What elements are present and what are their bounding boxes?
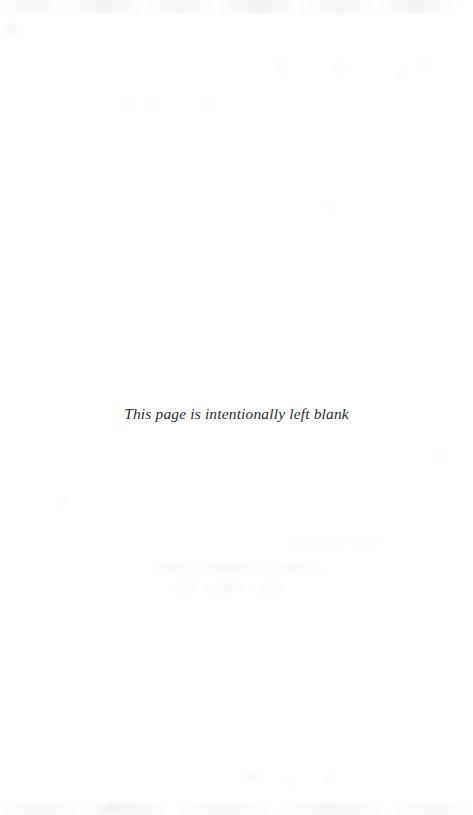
scan-speck — [438, 452, 444, 458]
scan-speck — [278, 62, 285, 71]
scan-speck — [286, 779, 293, 785]
scan-speck — [421, 60, 427, 70]
show-through-ghost-line — [168, 583, 308, 592]
scan-speck — [148, 98, 156, 106]
scan-speck — [398, 71, 403, 76]
scanned-page: This page is intentionally left blank — [0, 0, 473, 815]
scan-speck — [248, 773, 257, 780]
scan-speck — [102, 806, 114, 812]
intentionally-blank-notice: This page is intentionally left blank — [0, 405, 473, 423]
scan-speck — [203, 100, 209, 106]
scan-noise-bottom-band — [0, 803, 473, 815]
scan-noise-top-band — [0, 0, 473, 14]
show-through-ghost-line — [150, 563, 350, 574]
scan-speck — [125, 99, 131, 106]
scan-speck — [6, 26, 16, 33]
scan-speck — [327, 204, 332, 210]
scan-speck — [336, 64, 342, 70]
scan-speck — [328, 775, 334, 781]
show-through-ghost-line — [285, 538, 395, 546]
scan-speck — [60, 498, 67, 503]
